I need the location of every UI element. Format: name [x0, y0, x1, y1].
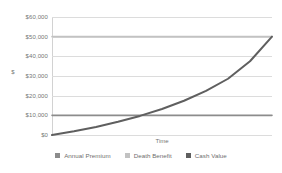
legend-swatch-icon [125, 153, 130, 158]
y-axis-tick-label: $40,000 [4, 53, 48, 59]
y-axis-tick-label: $50,000 [4, 34, 48, 40]
plot-area [52, 17, 272, 135]
legend-item[interactable]: Death Benefit [125, 152, 172, 159]
x-axis-title: Time [52, 138, 272, 145]
legend-item[interactable]: Cash Value [186, 152, 227, 159]
y-axis-tick-label: $20,000 [4, 93, 48, 99]
gridline [52, 135, 272, 136]
y-axis-tick-labels: $60,000$50,000$40,000$30,000$20,000$10,0… [0, 17, 48, 135]
legend-swatch-icon [55, 153, 60, 158]
series-line [52, 37, 272, 135]
series-lines [52, 17, 272, 135]
legend-swatch-icon [186, 153, 191, 158]
legend-label: Cash Value [195, 152, 227, 159]
y-axis-tick-label: $10,000 [4, 112, 48, 118]
y-axis-tick-label: $0 [4, 132, 48, 138]
y-axis-tick-label: $60,000 [4, 14, 48, 20]
legend-label: Death Benefit [134, 152, 172, 159]
chart-container: $60,000$50,000$40,000$30,000$20,000$10,0… [0, 0, 282, 173]
chart-legend: Annual PremiumDeath BenefitCash Value [0, 152, 282, 159]
y-axis-title: $ [8, 69, 18, 76]
legend-label: Annual Premium [64, 152, 110, 159]
legend-item[interactable]: Annual Premium [55, 152, 110, 159]
